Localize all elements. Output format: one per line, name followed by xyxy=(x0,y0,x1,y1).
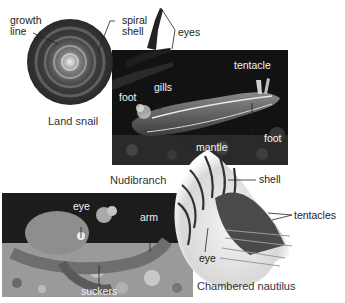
label-line-word: line xyxy=(10,26,42,37)
label-shell: shell xyxy=(259,174,281,185)
caption-chambered-nautilus: Chambered nautilus xyxy=(197,280,295,292)
label-naut-eye: eye xyxy=(199,253,216,264)
label-nudi-foot: foot xyxy=(264,133,282,144)
label-mantle: mantle xyxy=(196,142,228,153)
label-arm: arm xyxy=(140,212,158,223)
label-suckers: suckers xyxy=(81,286,117,297)
label-eyes: eyes xyxy=(178,27,200,38)
label-gills: gills xyxy=(154,82,172,93)
caption-land-snail: Land snail xyxy=(48,115,98,127)
label-snail-foot: foot xyxy=(119,92,137,103)
leader-eyes-1 xyxy=(161,8,175,30)
land-snail-illustration xyxy=(0,0,345,303)
label-shell-word: shell xyxy=(122,26,147,37)
label-tentacles: tentacles xyxy=(294,210,336,221)
label-tentacle: tentacle xyxy=(234,60,271,71)
label-growth-line: growth line xyxy=(10,15,42,37)
label-oct-eye: eye xyxy=(73,201,90,212)
leader-mantle xyxy=(178,132,195,147)
leader-nudi-foot xyxy=(246,123,262,137)
caption-nudibranch: Nudibranch xyxy=(110,174,166,186)
label-spiral-shell: spiral shell xyxy=(122,15,147,37)
leader-eyes-2 xyxy=(172,30,175,49)
